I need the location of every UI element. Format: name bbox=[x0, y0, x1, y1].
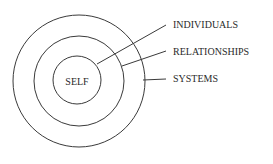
label-individuals: INDIVIDUALS bbox=[173, 19, 238, 30]
callout-line-relationships bbox=[122, 51, 166, 66]
label-relationships: RELATIONSHIPS bbox=[173, 46, 249, 57]
callout-line-individuals bbox=[97, 25, 166, 64]
concentric-circles-diagram: SELF INDIVIDUALS RELATIONSHIPS SYSTEMS bbox=[0, 0, 273, 164]
callout-line-systems bbox=[143, 79, 166, 80]
center-label-self: SELF bbox=[65, 76, 89, 87]
label-systems: SYSTEMS bbox=[173, 73, 218, 84]
